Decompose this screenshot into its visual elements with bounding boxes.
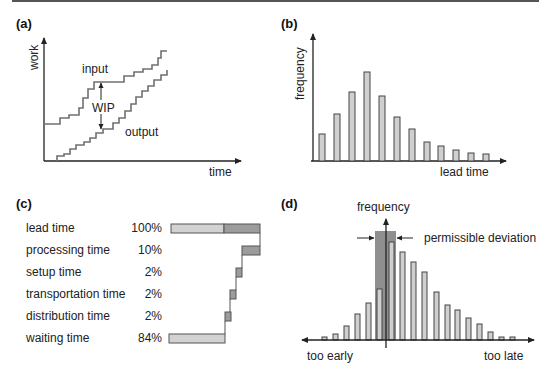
panel-d: (d) frequency permissible deviation too … bbox=[281, 196, 536, 363]
row-label: transportation time bbox=[26, 287, 126, 301]
distribution-time-bar bbox=[225, 312, 231, 321]
transportation-time-bar bbox=[230, 290, 236, 299]
row-label: lead time bbox=[26, 221, 75, 235]
row-label: waiting time bbox=[25, 331, 90, 345]
row-percent: 2% bbox=[145, 287, 163, 301]
histogram-bar bbox=[422, 272, 427, 340]
panel-a-label: (a) bbox=[16, 16, 32, 31]
row-percent: 2% bbox=[145, 265, 163, 279]
histogram-bar bbox=[455, 310, 460, 340]
histogram-bar bbox=[389, 242, 394, 340]
row-label: setup time bbox=[26, 265, 82, 279]
panel-c: (c) lead time processing time setup time… bbox=[16, 196, 260, 345]
input-label: input bbox=[82, 62, 109, 76]
x-axis-label: lead time bbox=[440, 165, 489, 179]
histogram-bar bbox=[438, 146, 444, 161]
waterfall-bars bbox=[169, 224, 260, 343]
histogram-bar bbox=[344, 326, 349, 340]
histogram-bar bbox=[349, 92, 355, 161]
panel-c-label: (c) bbox=[16, 196, 32, 211]
processing-time-bar bbox=[242, 246, 260, 255]
histogram-bar bbox=[477, 324, 482, 340]
histogram-bar bbox=[424, 142, 430, 161]
waiting-time-bar bbox=[169, 334, 225, 343]
histogram-bar bbox=[355, 314, 360, 340]
histogram-bar bbox=[466, 318, 471, 340]
lead-time-waiting-part bbox=[171, 224, 224, 233]
y-axis-label: frequency bbox=[293, 47, 307, 100]
row-percent: 2% bbox=[145, 309, 163, 323]
histogram-bar bbox=[409, 129, 415, 161]
histogram-bar bbox=[483, 154, 489, 161]
row-label: processing time bbox=[26, 243, 110, 257]
permissible-deviation-label: permissible deviation bbox=[424, 231, 536, 245]
time-breakdown-rows: lead time processing time setup time tra… bbox=[25, 221, 162, 345]
histogram-bar bbox=[400, 252, 405, 340]
figure-canvas: (a) work time input output WIP (b) frequ… bbox=[0, 0, 551, 377]
lead-time-histogram bbox=[319, 72, 489, 161]
too-late-label: too late bbox=[484, 349, 524, 363]
y-axis-label: frequency bbox=[357, 200, 410, 214]
row-percent: 84% bbox=[138, 331, 162, 345]
panel-b: (b) frequency lead time bbox=[281, 16, 506, 179]
histogram-bar bbox=[468, 153, 474, 161]
histogram-bar bbox=[333, 334, 338, 340]
lead-time-value-part bbox=[224, 224, 260, 233]
histogram-bar bbox=[453, 150, 459, 161]
row-label: distribution time bbox=[26, 309, 110, 323]
histogram-bar bbox=[434, 292, 439, 340]
y-axis-label: work bbox=[27, 44, 41, 71]
output-label: output bbox=[125, 125, 159, 139]
row-percent: 10% bbox=[138, 243, 162, 257]
histogram-bar bbox=[377, 289, 382, 340]
delivery-deviation-histogram bbox=[322, 242, 515, 340]
histogram-bar bbox=[445, 305, 450, 340]
histogram-bar bbox=[379, 96, 385, 161]
wip-label: WIP bbox=[92, 101, 115, 115]
x-axis-label: time bbox=[209, 165, 232, 179]
histogram-bar bbox=[394, 117, 400, 161]
too-early-label: too early bbox=[307, 349, 353, 363]
panel-b-label: (b) bbox=[281, 16, 298, 31]
setup-time-bar bbox=[236, 268, 242, 277]
histogram-bar bbox=[488, 332, 493, 340]
histogram-bar bbox=[319, 134, 325, 161]
panel-d-label: (d) bbox=[281, 196, 298, 211]
histogram-bar bbox=[366, 303, 371, 340]
histogram-bar bbox=[334, 114, 340, 161]
histogram-bar bbox=[411, 262, 416, 340]
histogram-bar bbox=[364, 72, 370, 161]
panel-a: (a) work time input output WIP bbox=[16, 16, 241, 179]
row-percent: 100% bbox=[131, 221, 162, 235]
